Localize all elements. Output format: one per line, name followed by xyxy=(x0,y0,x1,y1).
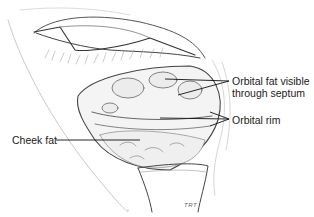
cheek-fat xyxy=(100,131,205,168)
artist-signature: TRT xyxy=(184,202,197,208)
label-orbital-fat-line1: Orbital fat visible xyxy=(232,75,310,87)
label-orbital-rim: Orbital rim xyxy=(232,114,280,126)
anatomical-illustration xyxy=(0,0,314,217)
label-orbital-fat-line2: through septum xyxy=(232,87,310,99)
upper-eyelid xyxy=(34,17,205,58)
label-orbital-fat: Orbital fat visible through septum xyxy=(232,75,310,99)
label-cheek-fat: Cheek fat xyxy=(12,134,57,146)
